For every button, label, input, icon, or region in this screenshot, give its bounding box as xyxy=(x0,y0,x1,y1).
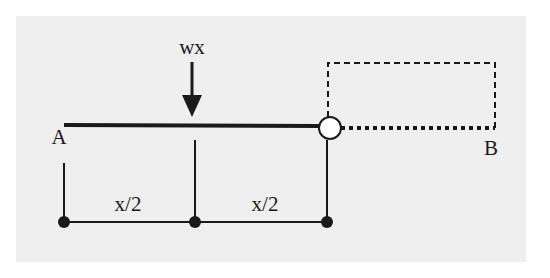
load-arrow-icon xyxy=(182,62,202,117)
load-label: wx xyxy=(179,35,205,59)
dimension-dot-left xyxy=(58,216,70,228)
dimension-dot-middle xyxy=(189,216,201,228)
hinge-icon xyxy=(319,117,341,139)
removed-segment-outline xyxy=(328,63,495,128)
dimension-dot-right xyxy=(321,216,333,228)
segment-label-second: x/2 xyxy=(252,192,279,216)
beam-solid-segment xyxy=(64,125,319,126)
point-b-label: B xyxy=(484,136,498,160)
beam-diagram: wx A B x/2 x/2 xyxy=(0,0,550,278)
segment-label-first: x/2 xyxy=(115,192,142,216)
point-a-label: A xyxy=(51,125,67,149)
